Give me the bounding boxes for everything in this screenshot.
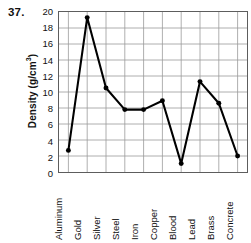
x-axis-tick-labels: AluminumGoldSilverSteelIronCopperBloodLe… bbox=[58, 174, 248, 243]
y-axis-tick-label: 20 bbox=[42, 6, 53, 17]
y-axis-title: Density (g/cm3) bbox=[27, 53, 38, 127]
x-axis-tick-label-text: Steel bbox=[110, 218, 121, 240]
y-axis-tick-label: 8 bbox=[48, 103, 53, 114]
data-point bbox=[198, 79, 203, 84]
y-axis-tick-label: 18 bbox=[42, 22, 53, 33]
data-point bbox=[66, 148, 71, 153]
data-line bbox=[68, 18, 237, 164]
data-point bbox=[216, 101, 221, 106]
y-axis-tick-label: 14 bbox=[42, 54, 53, 65]
data-point bbox=[85, 15, 90, 20]
y-axis-tick-labels: 20181614121086420 bbox=[38, 8, 55, 173]
data-point bbox=[122, 107, 127, 112]
x-axis-tick-label: Concrete bbox=[232, 174, 246, 240]
y-axis-tick-label: 2 bbox=[48, 151, 53, 162]
data-point bbox=[104, 86, 109, 91]
data-point bbox=[160, 98, 165, 103]
y-axis-title-exponent: 3 bbox=[25, 57, 32, 61]
x-axis-tick-label-text: Concrete bbox=[224, 201, 235, 240]
y-axis-tick-label: 6 bbox=[48, 119, 53, 130]
x-axis-tick-label-text: Blood bbox=[167, 216, 178, 240]
data-point bbox=[235, 154, 240, 159]
plot-area bbox=[58, 11, 248, 173]
x-axis-tick-label-text: Gold bbox=[72, 220, 83, 240]
data-point bbox=[179, 161, 184, 166]
x-axis-tick-label-text: Copper bbox=[148, 209, 159, 240]
figure-container: 37. Density (g/cm3) 20181614121086420 Al… bbox=[0, 0, 251, 243]
y-axis-tick-label: 4 bbox=[48, 135, 53, 146]
y-axis-tick-label: 0 bbox=[48, 168, 53, 179]
y-axis-tick-label: 10 bbox=[42, 87, 53, 98]
x-axis-tick-label-text: Silver bbox=[91, 216, 102, 240]
y-axis-title-text: Density (g/cm bbox=[27, 61, 38, 128]
data-point bbox=[141, 107, 146, 112]
y-axis-tick-label: 16 bbox=[42, 38, 53, 49]
problem-number: 37. bbox=[8, 6, 25, 18]
x-axis-tick-label-text: Brass bbox=[205, 216, 216, 240]
y-axis-title-suffix: ) bbox=[27, 53, 38, 56]
x-axis-tick-label-text: Iron bbox=[129, 224, 140, 240]
x-axis-tick-label-text: Aluminum bbox=[53, 198, 64, 240]
line-chart-svg bbox=[59, 12, 247, 172]
x-axis-tick-label-text: Lead bbox=[186, 219, 197, 240]
y-axis-tick-label: 12 bbox=[42, 70, 53, 81]
